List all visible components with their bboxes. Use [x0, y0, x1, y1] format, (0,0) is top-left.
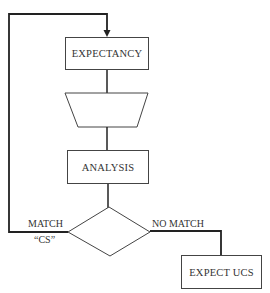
- decision-diamond: [68, 207, 150, 256]
- filter-trapezoid: [65, 93, 148, 127]
- cs-label: “CS”: [34, 234, 55, 245]
- expectancy-label: EXPECTANCY: [72, 48, 143, 59]
- no-match-label: NO MATCH: [152, 218, 204, 229]
- arrowhead-icon: [104, 30, 111, 37]
- expect-ucs-box: EXPECT UCS: [181, 255, 262, 289]
- analysis-label: ANALYSIS: [82, 162, 134, 173]
- expectancy-box: EXPECTANCY: [65, 37, 149, 70]
- match-label: MATCH: [28, 218, 63, 229]
- no-match-line: [150, 231, 221, 255]
- expect-ucs-label: EXPECT UCS: [189, 267, 254, 278]
- analysis-box: ANALYSIS: [67, 150, 149, 184]
